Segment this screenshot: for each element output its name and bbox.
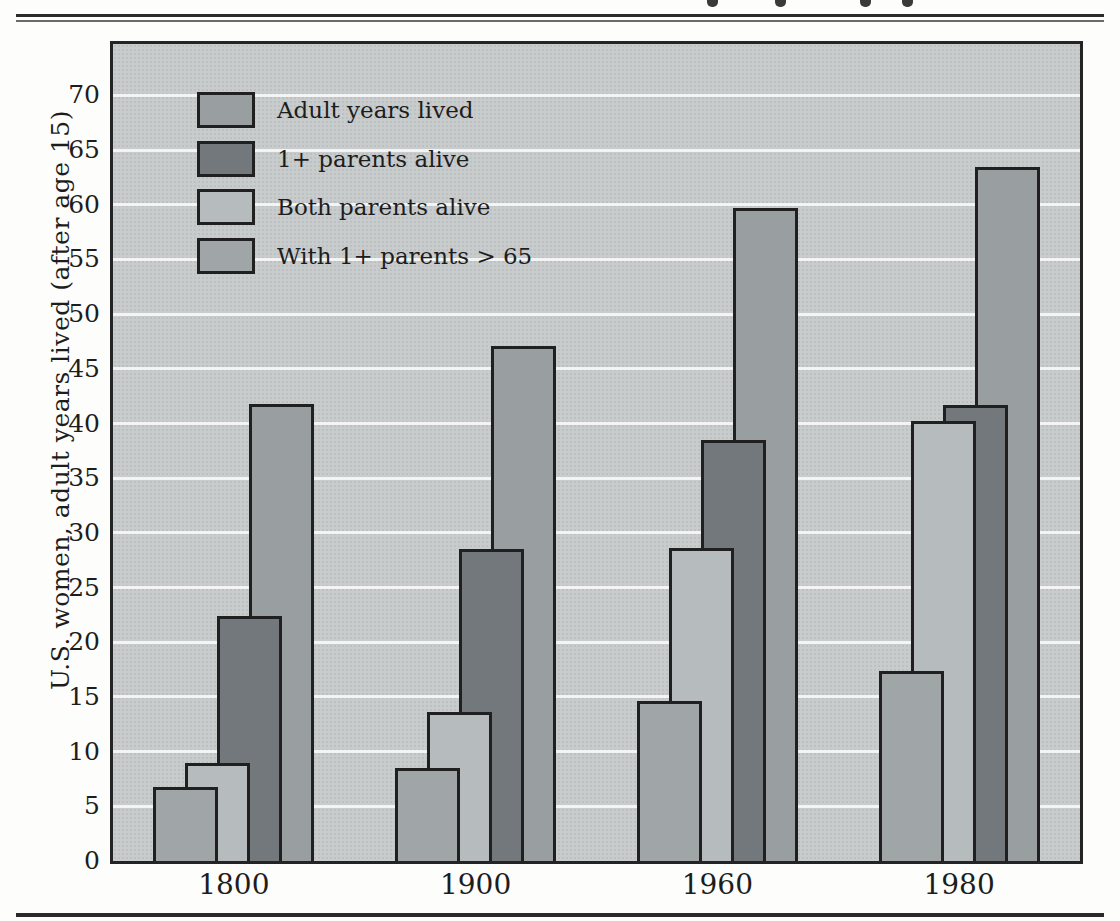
legend-swatch-with-1-parents-65 xyxy=(197,238,255,274)
y-tick-40: 40 xyxy=(0,411,100,437)
cropped-text-remnant xyxy=(775,0,786,7)
y-tick-55: 55 xyxy=(0,246,100,272)
y-tick-15: 15 xyxy=(0,684,100,710)
y-tick-50: 50 xyxy=(0,301,100,327)
x-tick-1800: 1800 xyxy=(164,868,304,901)
cropped-text-remnant xyxy=(860,0,871,7)
cropped-text-remnant xyxy=(707,0,718,7)
bar-1800-with-1-parents-65 xyxy=(153,787,218,861)
legend-label-with-1-parents-65: With 1+ parents > 65 xyxy=(277,238,532,274)
top-rule-echo xyxy=(16,20,1104,22)
bar-1900-with-1-parents-65 xyxy=(395,768,460,861)
y-tick-10: 10 xyxy=(0,739,100,765)
bottom-rule xyxy=(16,913,1104,917)
y-tick-35: 35 xyxy=(0,465,100,491)
gridline-55 xyxy=(113,258,1080,261)
legend-swatch-adult-years-lived xyxy=(197,92,255,128)
gridline-45 xyxy=(113,367,1080,370)
bar-1980-with-1-parents-65 xyxy=(879,671,944,861)
y-tick-0: 0 xyxy=(0,848,100,874)
y-tick-65: 65 xyxy=(0,137,100,163)
y-tick-45: 45 xyxy=(0,356,100,382)
legend-label-adult-years-lived: Adult years lived xyxy=(277,92,474,128)
x-tick-1900: 1900 xyxy=(406,868,546,901)
gridline-50 xyxy=(113,313,1080,316)
legend-swatch-1-parents-alive xyxy=(197,141,255,177)
gridline-70 xyxy=(113,94,1080,97)
plot-area: Adult years lived1+ parents aliveBoth pa… xyxy=(110,41,1083,864)
y-tick-5: 5 xyxy=(0,793,100,819)
y-tick-30: 30 xyxy=(0,520,100,546)
bar-1960-with-1-parents-65 xyxy=(637,701,702,861)
gridline-60 xyxy=(113,203,1080,206)
y-tick-20: 20 xyxy=(0,629,100,655)
y-tick-60: 60 xyxy=(0,192,100,218)
legend-label-1-parents-alive: 1+ parents alive xyxy=(277,141,469,177)
y-tick-25: 25 xyxy=(0,575,100,601)
x-tick-1980: 1980 xyxy=(889,868,1029,901)
x-tick-1960: 1960 xyxy=(647,868,787,901)
gridline-65 xyxy=(113,149,1080,152)
top-rule xyxy=(16,14,1104,17)
legend-swatch-both-parents-alive xyxy=(197,189,255,225)
legend-label-both-parents-alive: Both parents alive xyxy=(277,189,490,225)
cropped-text-remnant xyxy=(902,0,913,7)
y-tick-70: 70 xyxy=(0,82,100,108)
